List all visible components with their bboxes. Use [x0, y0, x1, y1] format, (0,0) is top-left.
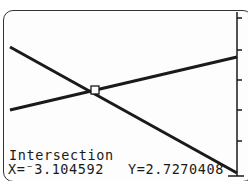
- intersection-cursor-icon: [91, 86, 99, 94]
- y-readout: Y=2.7270408: [128, 162, 224, 176]
- y-axis-ticks: [228, 18, 244, 176]
- function-label: Intersection: [9, 148, 114, 162]
- x-readout: X=⁻3.104592: [8, 162, 104, 176]
